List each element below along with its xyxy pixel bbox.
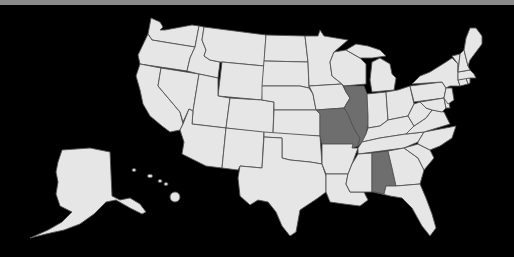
state-kansas[interactable] (273, 110, 320, 136)
state-north-dakota[interactable] (264, 35, 308, 62)
state-south-dakota[interactable] (262, 61, 309, 88)
us-map (0, 0, 514, 257)
state-maine[interactable] (464, 28, 482, 66)
state-montana[interactable] (202, 27, 266, 66)
state-michigan[interactable] (370, 58, 396, 92)
state-alaska[interactable] (30, 148, 146, 238)
state-iowa[interactable] (309, 84, 350, 110)
state-new-mexico[interactable] (222, 128, 264, 170)
state-wyoming[interactable] (218, 62, 264, 100)
state-hawaii[interactable] (132, 169, 180, 203)
